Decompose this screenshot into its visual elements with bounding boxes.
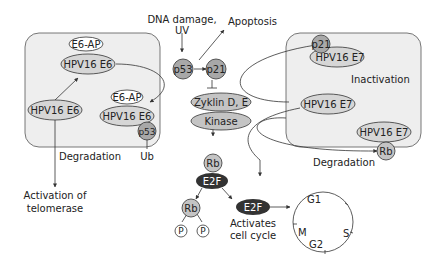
g2-label: G2 [309,239,323,250]
svg-text:HPV16 E6: HPV16 E6 [64,59,113,70]
rb-phosphorylated-node: Rb [182,199,200,217]
svg-text:E2F: E2F [203,176,222,187]
activates-label-1: Activates [230,218,276,229]
hpv16-e6-left-node: HPV16 E6 [28,100,82,120]
svg-text:p53: p53 [173,64,192,75]
rb-bound-node: Rb [204,154,222,172]
s-label: S [343,228,349,239]
svg-text:p53: p53 [138,127,155,137]
cell-cycle-diagram: G1 S M G2 [293,192,353,254]
svg-text:P: P [200,226,206,236]
p53-bound-node: p53 [138,122,156,140]
telomerase-label-2: telomerase [27,203,83,214]
apoptosis-label: Apoptosis [228,16,277,27]
zyklin-node: Zyklin D, E [191,93,251,111]
kinase-node: Kinase [191,112,251,130]
svg-text:P: P [178,226,184,236]
g1-label: G1 [307,194,321,205]
e2f-bound-node: E2F [196,173,228,189]
hpv16-e7-mid-node: HPV16 E7 [301,94,355,114]
stimulus-label: DNA damage, [147,14,216,25]
telomerase-label-1: Activation of [24,190,87,201]
svg-text:Kinase: Kinase [204,116,237,127]
stimulus-label-2: UV [175,25,189,36]
svg-text:E6-AP: E6-AP [72,39,101,50]
svg-text:Rb: Rb [206,158,219,169]
activates-label-2: cell cycle [230,230,276,241]
svg-text:Rb: Rb [184,203,197,214]
svg-text:HPV16 E6: HPV16 E6 [31,105,80,116]
svg-text:E2F: E2F [244,202,263,213]
svg-text:HPV16 E7: HPV16 E7 [360,127,409,138]
hpv16-e6-top-node: HPV16 E6 [61,54,115,74]
right-degradation-label: Degradation [313,157,375,168]
p21-bound-node: p21 [311,35,330,53]
p21-node: p21 [206,59,226,79]
p53-node: p53 [173,59,193,79]
left-degradation-label: Degradation [59,151,121,162]
svg-text:Rb: Rb [379,146,392,157]
svg-text:Zyklin D, E: Zyklin D, E [194,97,248,108]
e6ap-top-node: E6-AP [69,37,103,51]
e2f-free-node: E2F [236,199,270,215]
svg-text:E6-AP: E6-AP [113,92,142,103]
svg-text:HPV16 E7: HPV16 E7 [304,99,353,110]
hpv-p53-rb-pathway-diagram: DNA damage, UV Apoptosis E6-AP HPV16 E6 … [0,0,440,264]
ub-label: Ub [140,151,154,162]
inactivation-label: Inactivation [351,74,410,85]
phosphate-right-node: P [197,225,209,237]
hpv16-e7-bottom-node: HPV16 E7 [357,122,411,142]
svg-text:p21: p21 [311,39,330,50]
phosphate-left-node: P [175,225,187,237]
svg-text:HPV16 E6: HPV16 E6 [103,111,152,122]
e6ap-bottom-node: E6-AP [111,90,143,104]
rb-degraded-node: Rb [377,142,395,160]
svg-text:p21: p21 [206,64,225,75]
m-label: M [298,227,307,238]
